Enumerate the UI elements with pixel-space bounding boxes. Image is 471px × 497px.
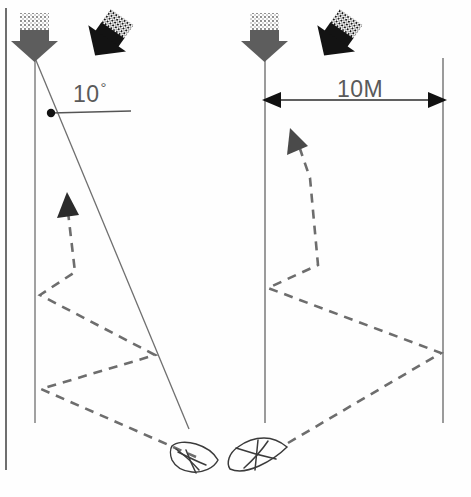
diagram-page: 10° 10M	[0, 0, 471, 497]
angle-label: 10°	[73, 79, 107, 108]
right-tack-arrowhead	[287, 128, 308, 155]
distance-label: 10M	[337, 76, 383, 103]
left-tack-arrowhead	[57, 192, 79, 218]
angle-vertex-dot	[47, 109, 55, 117]
angle-reference-line	[51, 111, 131, 113]
sailing-tacking-diagram	[0, 0, 471, 497]
wind-arrow-downleft-black-right	[305, 4, 370, 69]
angle-value: 10	[73, 81, 100, 107]
right-sailboat-sketch	[228, 438, 287, 471]
left-layline-angled	[35, 58, 189, 429]
right-panel	[228, 4, 447, 471]
wind-arrow-downleft-black-left	[76, 4, 141, 69]
left-tack-path	[40, 212, 196, 457]
left-panel	[11, 4, 218, 473]
wind-arrow-down-gray-right	[241, 13, 288, 62]
right-tack-path	[268, 143, 441, 443]
wind-arrow-down-gray-left	[11, 13, 58, 62]
degree-symbol: °	[101, 79, 108, 96]
